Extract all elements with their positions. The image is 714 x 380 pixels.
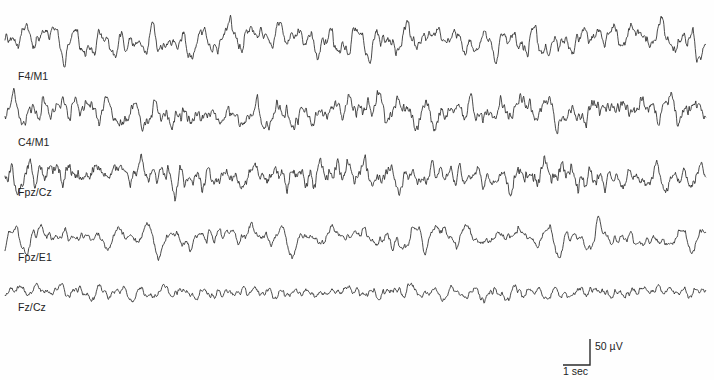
time-scale-label: 1 sec <box>563 366 588 377</box>
scale-bar-icon <box>0 0 714 380</box>
scale-bar-l-shape <box>563 339 590 365</box>
amplitude-scale-label: 50 µV <box>595 341 623 352</box>
eeg-figure: F4/M1C4/M1Fpz/CzFpz/E1Fz/Cz 50 µV 1 sec <box>0 0 714 380</box>
